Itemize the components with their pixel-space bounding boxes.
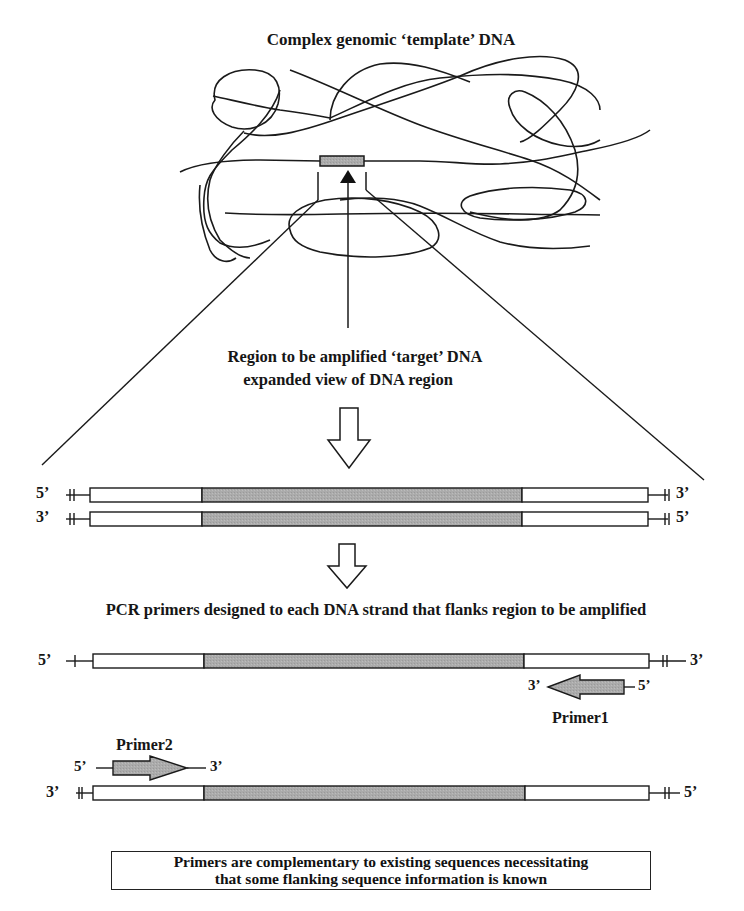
primer1-left-end: 3’	[528, 677, 541, 694]
primer1-arrow	[548, 675, 635, 699]
ds-bottom-left-end: 3’	[36, 508, 49, 526]
tangled-genomic-dna	[180, 57, 650, 262]
primer2-label: Primer2	[116, 736, 173, 754]
target-pointer-arrowhead	[340, 170, 356, 183]
dsdna-top-strand	[66, 488, 669, 502]
dsdna-bottom-strand	[66, 512, 669, 526]
target-region-marker	[320, 156, 364, 166]
note-box: Primers are complementary to existing se…	[111, 851, 651, 890]
ds-top-right-end: 3’	[676, 484, 689, 502]
target-label-line1: Region to be amplified ‘target’ DNA	[228, 347, 483, 367]
expansion-line-left	[42, 200, 318, 465]
primer1-label: Primer1	[552, 709, 609, 727]
strand-b-right-end: 5’	[684, 783, 697, 801]
note-line1: Primers are complementary to existing se…	[112, 853, 650, 870]
strand-b-left-end: 3’	[46, 783, 59, 801]
diagram-title: Complex genomic ‘template’ DNA	[267, 30, 515, 50]
primer2-arrow	[96, 756, 206, 780]
primer2-right-end: 3’	[210, 758, 223, 775]
strand-a-left-end: 5’	[38, 651, 51, 669]
primer1-right-end: 5’	[638, 677, 651, 694]
template-strand-a	[66, 654, 686, 668]
note-line2: that some flanking sequence information …	[112, 870, 650, 887]
target-label-line2: expanded view of DNA region	[243, 370, 453, 390]
template-strand-b	[76, 786, 680, 800]
down-arrow-1	[328, 408, 370, 468]
expansion-line-right	[366, 190, 704, 480]
primer2-left-end: 5’	[74, 758, 87, 775]
ds-top-left-end: 5’	[36, 484, 49, 502]
strand-a-right-end: 3’	[690, 651, 703, 669]
down-arrow-2	[328, 544, 366, 588]
pcr-heading: PCR primers designed to each DNA strand …	[106, 600, 647, 620]
pcr-diagram-canvas	[0, 0, 744, 911]
ds-bottom-right-end: 5’	[676, 508, 689, 526]
